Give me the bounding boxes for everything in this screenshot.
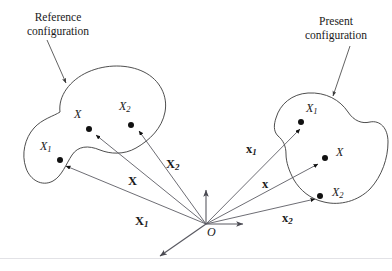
material-point-X2-present [317, 193, 323, 199]
label-point-X-reference-base: X [74, 107, 81, 121]
label-point-X-present-base: X [336, 145, 343, 159]
label-point-X1-present-sub: 1 [313, 106, 317, 116]
material-point-X1-reference [57, 157, 63, 163]
label-point-X-present: X [336, 146, 343, 159]
reference-callout-line2: configuration [6, 24, 110, 38]
present-callout-line2: configuration [284, 28, 388, 42]
present-callout-leader [333, 46, 350, 96]
material-point-X1-present [298, 119, 304, 125]
label-point-X2-reference-sub: 2 [126, 104, 130, 114]
reference-callout-line1: Reference [6, 10, 110, 24]
material-point-X-present [322, 155, 328, 161]
figure-canvas: Reference configuration Present configur… [0, 0, 392, 271]
label-point-X1-present: X1 [306, 102, 318, 115]
axis-oblique [160, 224, 206, 256]
label-vector-X1-reference-base: X [135, 214, 144, 228]
label-origin: O [207, 226, 216, 238]
reference-configuration-callout: Reference configuration [6, 10, 110, 38]
material-point-X-reference [86, 126, 92, 132]
label-point-X-reference: X [74, 108, 81, 121]
vector-x-present [206, 164, 318, 224]
label-vector-X1-reference: X1 [135, 215, 149, 229]
label-vector-X-reference: X [128, 175, 137, 189]
reference-callout-leader [47, 40, 66, 83]
label-vector-X2-reference: X2 [166, 158, 180, 172]
label-vector-X2-reference-sub: 2 [175, 162, 180, 172]
reference-body-outline [24, 66, 166, 183]
bottom-divider [0, 258, 392, 259]
label-point-X2-present: X2 [332, 186, 344, 199]
present-callout-line1: Present [284, 14, 388, 28]
label-vector-X2-reference-base: X [166, 157, 175, 171]
label-point-X2-reference: X2 [119, 100, 131, 113]
label-vector-x-present-base: x [262, 177, 268, 191]
label-vector-x2-present-sub: 2 [288, 216, 293, 226]
vector-x2-present [206, 199, 315, 224]
label-vector-x2-present: x2 [282, 212, 293, 226]
label-vector-X-reference-base: X [128, 174, 137, 188]
label-point-X1-reference: X1 [40, 140, 52, 153]
present-configuration-callout: Present configuration [284, 14, 388, 42]
label-point-X1-reference-sub: 1 [47, 144, 51, 154]
label-point-X2-present-sub: 2 [339, 190, 343, 200]
label-vector-x1-present: x1 [246, 143, 257, 157]
material-point-X2-reference [128, 122, 134, 128]
label-vector-X1-reference-sub: 1 [144, 219, 149, 229]
label-vector-x1-present-sub: 1 [252, 147, 257, 157]
label-vector-x-present: x [262, 178, 268, 192]
